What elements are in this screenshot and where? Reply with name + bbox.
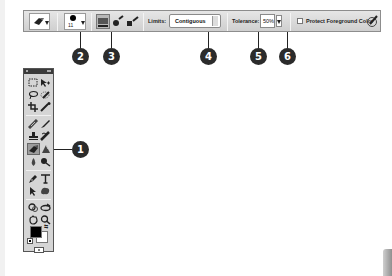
dodge-icon	[40, 157, 51, 167]
page-margin	[0, 0, 5, 276]
brush-size: 11	[68, 22, 73, 28]
sampling-continuous-button[interactable]	[96, 14, 110, 29]
toolbox-divider	[26, 115, 51, 116]
tool-brush[interactable]	[40, 119, 51, 129]
limits-label: Limits:	[148, 18, 166, 24]
tool-blur[interactable]	[28, 157, 39, 167]
limits-value: Contiguous	[175, 18, 206, 24]
tool-pen[interactable]	[28, 174, 39, 184]
callout-5: 5	[250, 48, 267, 65]
protect-foreground-label: Protect Foreground Color	[306, 18, 373, 24]
callout-3: 3	[103, 48, 120, 65]
divider	[290, 13, 291, 31]
marquee-icon	[28, 78, 39, 88]
callout-line-6	[287, 32, 288, 48]
custom-shape-icon	[40, 186, 51, 196]
tool-dodge[interactable]	[40, 157, 51, 167]
crop-icon	[28, 102, 39, 112]
tool-type[interactable]	[40, 174, 51, 184]
callout-1: 1	[72, 141, 89, 158]
sampling-continuous-icon	[97, 16, 109, 29]
sampling-options	[94, 12, 141, 32]
tool-background-eraser[interactable]	[27, 143, 40, 155]
expand-icon[interactable]	[47, 70, 51, 72]
foreground-color-swatch[interactable]	[30, 226, 42, 238]
callout-4: 4	[200, 48, 217, 65]
sampling-once-button[interactable]	[111, 14, 125, 29]
clone-stamp-icon	[28, 131, 39, 141]
move-icon	[40, 78, 51, 88]
sampling-background-swatch-icon	[126, 15, 139, 28]
select-arrows-icon	[212, 16, 218, 26]
dropdown-arrow-icon	[277, 20, 281, 24]
type-icon	[40, 174, 51, 184]
callout-6: 6	[279, 48, 296, 65]
callout-line-4	[208, 32, 209, 48]
callout-line-3	[111, 32, 112, 48]
divider	[57, 13, 58, 31]
blur-icon	[28, 157, 39, 167]
dropdown-arrow-icon	[81, 21, 85, 25]
callout-line-1	[52, 149, 72, 150]
tool-hand[interactable]	[28, 215, 39, 225]
tool-clone-stamp[interactable]	[28, 131, 39, 141]
brush-icon	[40, 119, 51, 129]
sampling-background-swatch-button[interactable]	[126, 14, 140, 29]
toolbox-divider	[26, 199, 51, 200]
tool-crop[interactable]	[28, 102, 39, 112]
tool-custom-shape[interactable]	[40, 186, 51, 196]
tool-path-selection[interactable]	[28, 186, 39, 196]
lasso-icon	[28, 90, 39, 100]
tool-gradient[interactable]	[41, 144, 52, 154]
tool-history-brush[interactable]	[40, 131, 51, 141]
screenshot-page: 11	[0, 0, 392, 276]
history-brush-icon	[40, 131, 51, 141]
close-icon[interactable]	[26, 70, 28, 72]
tool-3d-rotate[interactable]	[28, 203, 39, 213]
tolerance-label: Tolerance:	[232, 18, 259, 24]
quick-selection-icon	[40, 90, 51, 100]
toolbox-divider	[26, 170, 51, 171]
eyedropper-icon	[40, 102, 51, 112]
tablet-pressure-icon[interactable]	[366, 14, 379, 28]
divider	[227, 13, 228, 31]
tool-rectangular-marquee[interactable]	[28, 78, 39, 88]
divider	[143, 13, 144, 31]
tolerance-input[interactable]: 50%	[260, 14, 275, 28]
protect-foreground-checkbox[interactable]	[297, 18, 303, 24]
3d-orbit-icon	[40, 203, 51, 213]
tool-lasso[interactable]	[28, 90, 39, 100]
path-selection-icon	[28, 186, 39, 196]
chapter-tab	[383, 249, 392, 276]
spot-healing-icon	[28, 119, 39, 129]
paint-bucket-icon	[41, 144, 52, 154]
limits-select[interactable]: Contiguous	[169, 14, 221, 28]
brush-picker[interactable]: 11	[64, 13, 86, 30]
toolbox-panel: ⇆	[23, 68, 54, 252]
3d-rotate-icon	[28, 203, 39, 213]
brush-tip-icon	[70, 15, 76, 21]
callout-2: 2	[72, 48, 89, 65]
callout-line-5	[258, 32, 259, 48]
tool-preset-picker[interactable]	[29, 13, 50, 30]
tool-quick-selection[interactable]	[40, 90, 51, 100]
background-eraser-icon	[28, 144, 39, 154]
tolerance-slider-button[interactable]	[276, 15, 282, 27]
swap-colors-icon[interactable]: ⇆	[44, 223, 48, 229]
tool-spot-healing-brush[interactable]	[28, 119, 39, 129]
hand-icon	[28, 215, 39, 225]
background-eraser-icon	[33, 17, 45, 26]
tool-3d-orbit[interactable]	[40, 203, 51, 213]
dropdown-arrow-icon	[45, 21, 49, 25]
tool-move[interactable]	[40, 78, 51, 88]
quick-mask-button[interactable]	[34, 247, 44, 253]
callout-line-2	[80, 32, 81, 48]
toolbox-title-bar[interactable]	[24, 69, 53, 74]
options-bar: 11	[23, 10, 381, 32]
sampling-once-icon	[111, 15, 124, 28]
tool-eyedropper[interactable]	[40, 102, 51, 112]
divider	[91, 13, 92, 31]
pen-icon	[28, 174, 39, 184]
default-colors-icon[interactable]	[28, 239, 32, 243]
